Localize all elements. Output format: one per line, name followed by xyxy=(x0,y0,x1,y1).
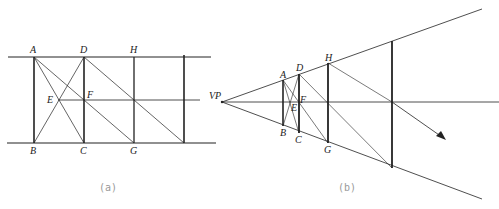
caption-a: (a) xyxy=(99,183,117,193)
label-b-VP: VP xyxy=(209,91,221,101)
label-b-F: F xyxy=(300,95,306,105)
label-b-C: C xyxy=(295,135,302,145)
label-b-B: B xyxy=(280,128,286,138)
diagram-a-lines xyxy=(7,55,216,143)
diagram-canvas xyxy=(0,0,499,209)
vanishing-point-marker xyxy=(221,101,223,103)
label-a-E: E xyxy=(47,95,53,105)
caption-b: (b) xyxy=(338,183,356,193)
diagram-b-lines xyxy=(222,9,499,199)
label-b-D: D xyxy=(296,63,303,73)
label-a-C: C xyxy=(80,146,87,156)
label-b-H: H xyxy=(325,53,332,63)
label-b-E: E xyxy=(291,103,297,113)
label-b-A: A xyxy=(280,70,286,80)
label-a-H: H xyxy=(130,45,137,55)
label-b-G: G xyxy=(324,145,331,155)
label-a-A: A xyxy=(30,45,36,55)
label-a-B: B xyxy=(30,146,36,156)
arrowhead-icon xyxy=(436,131,446,140)
label-a-G: G xyxy=(130,146,137,156)
label-a-D: D xyxy=(80,45,87,55)
label-a-F: F xyxy=(87,90,93,100)
perspective-diagram-figure: A D H E F B C G (a) VP A D H F E B C G (… xyxy=(0,0,499,209)
